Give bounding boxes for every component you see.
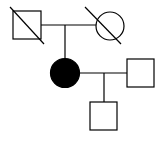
pedigree-diagram (0, 0, 163, 142)
grandfather-deceased-male-symbol (10, 7, 44, 44)
son-male-symbol (90, 102, 117, 130)
partner-male-symbol (127, 59, 154, 87)
affected-female-symbol (51, 59, 80, 88)
